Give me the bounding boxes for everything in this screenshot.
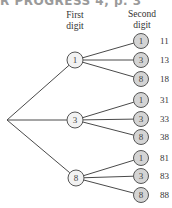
edge-root-to-first-digit (7, 65, 69, 120)
second-digit-node-label: 1 (139, 36, 144, 46)
edge-root-to-first-digit (7, 120, 70, 173)
edge-first-to-second-digit (84, 180, 134, 193)
outcome-value: 11 (160, 36, 169, 46)
second-digit-node-label: 8 (139, 132, 144, 142)
tree-diagram: 111131381831313338388181383888 (0, 0, 172, 208)
edge-first-to-second-digit (83, 119, 134, 120)
second-digit-node-label: 8 (139, 190, 144, 200)
outcome-value: 13 (160, 55, 170, 65)
second-digit-node-label: 1 (139, 153, 144, 163)
second-digit-node-label: 3 (139, 55, 144, 65)
edge-first-to-second-digit (83, 122, 134, 135)
edge-first-to-second-digit (83, 102, 134, 118)
edge-first-to-second-digit (83, 62, 134, 77)
second-digit-node-label: 3 (139, 114, 144, 124)
second-digit-node-label: 3 (139, 171, 144, 181)
edge-first-to-second-digit (84, 160, 134, 175)
second-digit-node-label: 1 (139, 95, 144, 105)
outcome-value: 31 (160, 95, 169, 105)
outcome-value: 18 (160, 74, 170, 84)
outcome-value: 83 (160, 171, 170, 181)
outcome-value: 88 (160, 190, 170, 200)
second-digit-node-label: 8 (139, 74, 144, 84)
first-digit-node-label: 8 (74, 173, 79, 183)
first-digit-node-label: 3 (73, 115, 78, 125)
outcome-value: 38 (160, 132, 170, 142)
outcome-value: 33 (160, 114, 170, 124)
first-digit-node-label: 1 (73, 55, 78, 65)
edge-first-to-second-digit (83, 43, 134, 58)
outcome-value: 81 (160, 153, 169, 163)
edge-first-to-second-digit (84, 176, 134, 178)
